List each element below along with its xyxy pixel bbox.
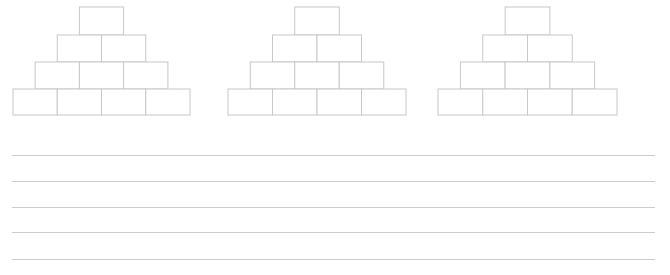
pyramid-2-row-4 (228, 89, 406, 115)
pyramid-2-block-r3c2[interactable] (295, 62, 340, 89)
pyramid-1-block-r4c2[interactable] (57, 89, 101, 115)
pyramid-1-block-r3c1[interactable] (35, 62, 79, 89)
pyramid-1-block-r4c1[interactable] (13, 89, 57, 115)
pyramid-1-row-2 (57, 35, 146, 62)
pyramid-1-block-r4c4[interactable] (146, 89, 190, 115)
pyramid-1-block-r2c1[interactable] (57, 35, 101, 62)
pyramid-3-block-r1c1[interactable] (505, 7, 550, 35)
pyramid-1 (13, 7, 190, 115)
pyramid-3-block-r4c4[interactable] (572, 89, 617, 115)
pyramid-3-block-r4c3[interactable] (528, 89, 573, 115)
pyramid-1-row-4 (13, 89, 190, 115)
pyramid-2-block-r4c2[interactable] (273, 89, 318, 115)
worksheet-drawing (0, 0, 670, 275)
pyramid-1-block-r3c3[interactable] (124, 62, 168, 89)
pyramid-1-block-r2c2[interactable] (102, 35, 146, 62)
pyramids-group (13, 7, 617, 115)
pyramid-2-row-2 (273, 35, 362, 62)
pyramid-2-block-r3c1[interactable] (250, 62, 295, 89)
pyramid-2-block-r4c1[interactable] (228, 89, 273, 115)
pyramid-1-block-r1c1[interactable] (79, 7, 123, 35)
pyramid-3-row-3 (460, 62, 594, 89)
pyramid-1-block-r3c2[interactable] (79, 62, 123, 89)
pyramid-2-block-r4c4[interactable] (362, 89, 407, 115)
pyramid-3-block-r3c1[interactable] (460, 62, 505, 89)
pyramid-2-block-r1c1[interactable] (295, 7, 340, 35)
pyramid-3-block-r2c2[interactable] (528, 35, 573, 62)
pyramid-2-block-r3c3[interactable] (339, 62, 384, 89)
pyramid-1-block-r4c3[interactable] (102, 89, 146, 115)
pyramid-3-block-r4c1[interactable] (438, 89, 483, 115)
pyramid-3 (438, 7, 617, 115)
pyramid-3-block-r2c1[interactable] (483, 35, 528, 62)
pyramid-1-row-3 (35, 62, 168, 89)
pyramid-2-row-1 (295, 7, 340, 35)
worksheet-canvas (0, 0, 670, 275)
pyramid-3-row-1 (505, 7, 550, 35)
pyramid-3-block-r3c3[interactable] (550, 62, 595, 89)
ruled-lines-group (12, 156, 655, 260)
pyramid-3-block-r3c2[interactable] (505, 62, 550, 89)
pyramid-3-row-4 (438, 89, 617, 115)
pyramid-3-row-2 (483, 35, 573, 62)
pyramid-2-block-r2c1[interactable] (273, 35, 318, 62)
pyramid-3-block-r4c2[interactable] (483, 89, 528, 115)
pyramid-1-row-1 (79, 7, 123, 35)
pyramid-2-row-3 (250, 62, 384, 89)
pyramid-2 (228, 7, 406, 115)
pyramid-2-block-r2c2[interactable] (317, 35, 362, 62)
pyramid-2-block-r4c3[interactable] (317, 89, 362, 115)
